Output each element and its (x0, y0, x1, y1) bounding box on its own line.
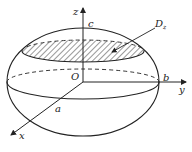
c-label: c (88, 18, 94, 29)
origin-label: O (71, 71, 79, 82)
equator-front (7, 82, 159, 99)
x-axis (11, 82, 83, 135)
region-label-main: D (154, 18, 163, 29)
a-label: a (55, 103, 61, 114)
region-label: Dz (154, 18, 167, 30)
x-axis-label: x (19, 130, 25, 141)
y-axis-label: y (178, 84, 185, 95)
region-label-subscript: z (162, 23, 167, 30)
ellipsoid-diagram: z c O b y a x Dz (0, 0, 192, 152)
b-label: b (163, 72, 169, 83)
z-axis-label: z (72, 6, 79, 17)
